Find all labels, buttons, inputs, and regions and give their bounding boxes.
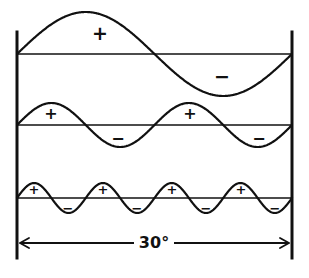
minus-sign-label: −	[63, 201, 74, 216]
minus-sign-label: −	[214, 65, 230, 87]
plus-sign-label: +	[44, 104, 57, 123]
figure-root: +−+−+−+−+−+−+− 30°	[0, 0, 309, 278]
minus-sign-label: −	[270, 201, 281, 216]
minus-sign-label: −	[132, 201, 143, 216]
plus-sign-label: +	[92, 22, 108, 44]
minus-sign-label: −	[111, 129, 124, 148]
plus-sign-label: +	[236, 182, 247, 197]
plus-sign-label: +	[167, 182, 178, 197]
minus-sign-label: −	[252, 129, 265, 148]
plus-sign-label: +	[183, 104, 196, 123]
plus-sign-label: +	[98, 182, 109, 197]
minus-sign-label: −	[201, 201, 212, 216]
dimension-label: 30°	[139, 233, 169, 252]
plus-sign-label: +	[29, 182, 40, 197]
harmonics-diagram: +−+−+−+−+−+−+− 30°	[0, 0, 309, 278]
